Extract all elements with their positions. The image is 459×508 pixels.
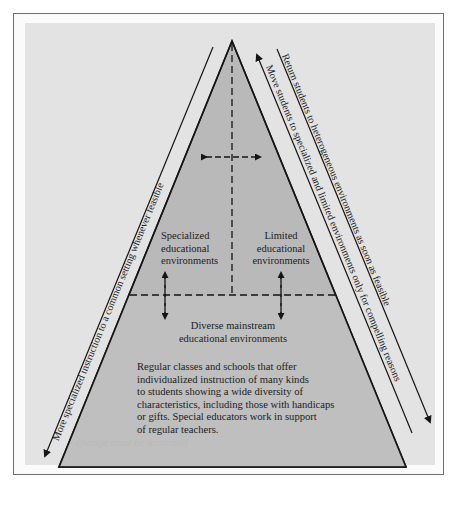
label-line: Limited bbox=[241, 230, 321, 243]
description-line: or gifts. Special educators work in supp… bbox=[137, 411, 334, 424]
mainstream-description: Regular classes and schools that offer i… bbox=[137, 361, 334, 437]
specialized-label: Specialized educational environments bbox=[161, 230, 218, 268]
mainstream-label: Diverse mainstream educational environme… bbox=[165, 320, 301, 345]
label-line: educational environments bbox=[165, 333, 301, 346]
label-line: environments bbox=[241, 255, 321, 268]
description-line: individualized instruction of many kinds bbox=[137, 374, 334, 387]
description-line: characteristics, including those with ha… bbox=[137, 399, 334, 412]
label-line: educational bbox=[241, 243, 321, 256]
label-line: environments bbox=[161, 255, 218, 268]
description-line: Regular classes and schools that offer bbox=[137, 361, 334, 374]
description-line: to students showing a wide diversity of bbox=[137, 386, 334, 399]
bleed-through-text: change must be launched bbox=[76, 436, 188, 448]
description-line: of regular teachers. bbox=[137, 424, 334, 437]
label-line: Diverse mainstream bbox=[165, 320, 301, 333]
label-line: educational bbox=[161, 243, 218, 256]
label-line: Specialized bbox=[161, 230, 218, 243]
limited-label: Limited educational environments bbox=[241, 230, 321, 268]
